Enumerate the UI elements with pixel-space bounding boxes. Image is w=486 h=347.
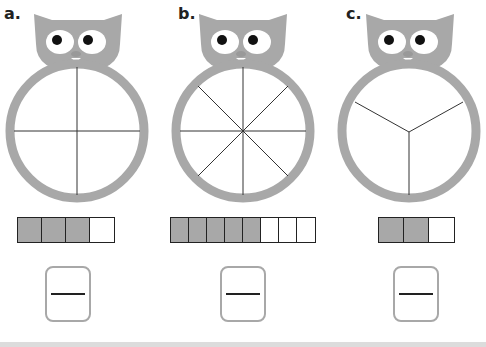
- bar-cell-shaded: [42, 218, 66, 242]
- fraction-bar: [17, 217, 115, 243]
- bar-cell-empty: [429, 218, 454, 242]
- bar-cell-shaded: [171, 218, 189, 242]
- bar-cell-shaded: [243, 218, 261, 242]
- cat-circle-icon: [0, 0, 160, 215]
- bar-cell-shaded: [225, 218, 243, 242]
- bar-cell-empty: [279, 218, 297, 242]
- bar-cell-empty: [297, 218, 315, 242]
- cat-circle-icon: [165, 0, 325, 215]
- fraction-bar: [170, 217, 316, 243]
- bar-cell-shaded: [66, 218, 90, 242]
- bar-cell-shaded: [404, 218, 429, 242]
- fraction-line: [51, 293, 85, 295]
- bar-cell-shaded: [189, 218, 207, 242]
- bar-cell-shaded: [379, 218, 404, 242]
- fraction-answer-box[interactable]: [220, 266, 266, 322]
- fraction-line: [226, 293, 260, 295]
- fraction-bar: [378, 217, 455, 243]
- fraction-answer-box[interactable]: [393, 266, 439, 322]
- fraction-line: [399, 293, 433, 295]
- cat-circle-icon: [332, 0, 486, 215]
- bar-cell-shaded: [207, 218, 225, 242]
- bottom-band: [0, 342, 486, 347]
- bar-cell-shaded: [18, 218, 42, 242]
- bar-cell-empty: [261, 218, 279, 242]
- bar-cell-empty: [90, 218, 114, 242]
- fraction-answer-box[interactable]: [45, 266, 91, 322]
